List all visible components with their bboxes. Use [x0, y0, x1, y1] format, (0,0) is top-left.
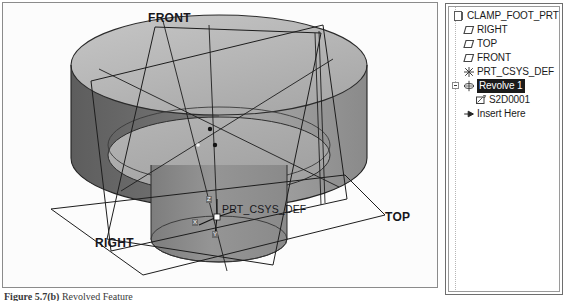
- axis-label-y: Y: [212, 231, 218, 238]
- axis-label-z: Z: [206, 196, 212, 203]
- tree-item-label: RIGHT: [477, 23, 508, 37]
- datum-plane-icon: [463, 52, 475, 64]
- tree-item-revolve-1[interactable]: Revolve 1: [449, 79, 559, 93]
- figure-caption-label: Figure 5.7(b): [4, 291, 59, 301]
- model-tree-inner: CLAMP_FOOT_PRT RIGHT: [448, 6, 560, 292]
- part-icon: [453, 10, 465, 22]
- datum-plane-label-front: FRONT: [148, 11, 191, 25]
- cad-application-window: FRONT RIGHT TOP PRT_CSYS_DEF Z X Y: [0, 0, 566, 301]
- tree-item-label: FRONT: [477, 51, 511, 65]
- tree-item-s2d0001[interactable]: S2D0001: [449, 93, 559, 107]
- tree-item-label: Insert Here: [477, 107, 525, 121]
- coordinate-system-label: PRT_CSYS_DEF: [222, 203, 306, 215]
- datum-plane-label-right: RIGHT: [95, 236, 134, 250]
- insert-here-icon: [463, 108, 475, 120]
- model-tree-list[interactable]: CLAMP_FOOT_PRT RIGHT: [449, 9, 559, 121]
- tree-expander-toggle[interactable]: [452, 82, 459, 89]
- datum-plane-label-top: TOP: [385, 210, 410, 224]
- tree-item-clamp-foot-prt[interactable]: CLAMP_FOOT_PRT: [449, 9, 559, 23]
- datum-plane-icon: [463, 38, 475, 50]
- tree-item-label: S2D0001: [489, 93, 530, 107]
- tree-item-insert-here[interactable]: Insert Here: [449, 107, 559, 121]
- tree-item-label: Revolve 1: [477, 79, 525, 93]
- tree-item-label: CLAMP_FOOT_PRT: [467, 9, 559, 23]
- model-geometry: [3, 3, 437, 287]
- tree-item-label: PRT_CSYS_DEF: [477, 65, 554, 79]
- revolve-feature-icon: [463, 80, 475, 92]
- tree-item-label: TOP: [477, 37, 497, 51]
- axis-label-x: X: [192, 219, 198, 226]
- coordinate-system-icon: [463, 66, 475, 78]
- model-tree-panel[interactable]: CLAMP_FOOT_PRT RIGHT: [445, 3, 563, 295]
- sketch-icon: [475, 94, 487, 106]
- figure-caption-text: Revolved Feature: [59, 291, 132, 301]
- tree-item-front[interactable]: FRONT: [449, 51, 559, 65]
- tree-item-prt-csys-def[interactable]: PRT_CSYS_DEF: [449, 65, 559, 79]
- tree-item-top[interactable]: TOP: [449, 37, 559, 51]
- datum-plane-icon: [463, 24, 475, 36]
- graphics-viewport[interactable]: FRONT RIGHT TOP PRT_CSYS_DEF Z X Y: [2, 2, 438, 288]
- figure-caption: Figure 5.7(b) Revolved Feature: [4, 291, 404, 301]
- tree-item-right[interactable]: RIGHT: [449, 23, 559, 37]
